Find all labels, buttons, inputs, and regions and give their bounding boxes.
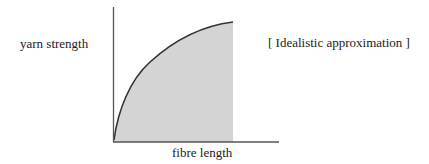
- y-axis-label: yarn strength: [20, 36, 88, 52]
- strength-vs-length-diagram: [0, 0, 429, 164]
- annotation-note: [ Idealistic approximation ]: [268, 35, 410, 51]
- x-axis-label: fibre length: [172, 145, 232, 161]
- shaded-area: [114, 22, 233, 142]
